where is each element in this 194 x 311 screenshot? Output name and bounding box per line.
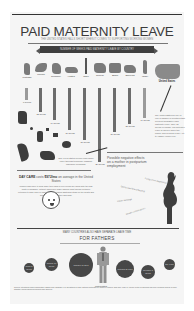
section-divider [107, 152, 183, 153]
father-leave-circle: Spain 2 weeks [24, 263, 34, 273]
page-subtitle: THE UNITED STATES FALLS SHORT WHEN IT CO… [0, 38, 194, 41]
fathers-divider [60, 243, 140, 244]
father-leave-circle: Germany 8 weeks [141, 265, 155, 279]
pregnant-woman-icon [160, 172, 180, 224]
austria-map-icon [65, 67, 78, 73]
state-map-icon [37, 131, 43, 142]
bar-greece [98, 88, 101, 162]
usa-map-icon [155, 64, 180, 79]
father-leave-circle: Italy 1 day [164, 259, 175, 270]
bar-spain [113, 88, 116, 132]
bar-israel [143, 88, 146, 118]
fathers-heading: MANY COUNTRIES ALSO HAVE SEPARATE LEAVE … [0, 231, 194, 234]
negative-effects-title: Possible negative effects on a mother in… [107, 156, 147, 168]
section-divider [17, 170, 91, 171]
new-york-map-icon [40, 151, 55, 160]
state-map-icon [53, 133, 58, 137]
bar-austria [68, 88, 71, 130]
section-divider [17, 228, 179, 229]
chile-map-icon [85, 58, 87, 74]
spain-map-icon [109, 63, 121, 73]
bar-germany [53, 88, 56, 120]
israel-map-icon [143, 60, 147, 74]
bar-slovenia [128, 88, 131, 124]
hawaii-map-icon [62, 141, 71, 148]
section-banner: NUMBER OF WEEKS PAID MATERNITY LEAVE BY … [40, 46, 154, 53]
slovenia-map-icon [124, 65, 136, 73]
states-note: Only a few states provide paid family le… [58, 157, 94, 166]
top-divider [12, 14, 182, 15]
sources-text: Sources: International Labour Organizati… [14, 287, 184, 292]
bar-portugal [25, 88, 28, 100]
title-divider [28, 43, 168, 44]
state-map-icon [18, 111, 27, 124]
country-israel: Israel [136, 60, 154, 78]
mexico-map-icon [35, 63, 47, 72]
us-label: United States [152, 80, 182, 83]
bar-mexico [39, 88, 42, 112]
portugal-map-icon [24, 63, 30, 75]
us-note: The United States is one of only a handf… [155, 114, 185, 138]
state-map-icon [30, 127, 33, 130]
daycare-heading: DAY CARE costs $972/mo on average in the… [16, 175, 96, 183]
bar-chile [83, 88, 86, 140]
fathers-title: FOR FATHERS [0, 236, 194, 241]
father-leave-circle: Sweden 60 days [69, 253, 93, 277]
germany-map-icon [52, 63, 61, 74]
baby-face-icon [42, 191, 60, 209]
greece-map-icon [94, 63, 106, 73]
father-leave-circle: Norway 10 weeks [45, 258, 58, 271]
father-figure-icon [97, 246, 109, 284]
father-leave-circle: Portugal 20 days [116, 260, 134, 278]
page-title: PAID MATERNITY LEAVE [0, 24, 194, 39]
state-map-icon [46, 128, 49, 131]
